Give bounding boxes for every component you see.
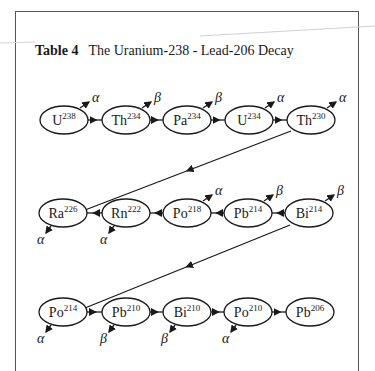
nuclide-node-Th234: Th234β [102, 90, 161, 134]
emission-arrow-icon [325, 195, 334, 201]
emission-arrow-icon [46, 325, 51, 332]
nuclide-node-Bi214: Bi214β [285, 183, 344, 227]
emission-arrow-icon [203, 195, 212, 201]
emission-arrow-icon [46, 226, 51, 233]
nuclide-node-U234: U234α [225, 90, 285, 134]
emission-label: β [275, 183, 283, 198]
emission-label: α [215, 183, 223, 198]
emission-label: β [336, 183, 344, 198]
emission-arrow-icon [109, 325, 114, 332]
emission-label: α [37, 331, 45, 346]
emission-arrow-icon [80, 102, 89, 108]
nuclide-node-Po210: Po210α [222, 298, 272, 346]
emission-label: α [100, 232, 108, 247]
nuclide-node-Bi210: Bi210β [160, 298, 211, 346]
emission-label: α [339, 90, 347, 105]
arrowhead-icon [187, 169, 192, 171]
nuclide-node-Pb206: Pb206 [286, 298, 334, 326]
emission-label: β [99, 331, 107, 346]
emission-arrow-icon [264, 195, 273, 201]
emission-arrow-icon [203, 102, 212, 108]
nuclide-node-Ra226: Ra226α [37, 199, 87, 247]
nuclide-node-Th230: Th230α [287, 90, 347, 134]
emission-arrow-icon [109, 226, 114, 233]
arrowhead-icon [187, 265, 192, 267]
nuclide-node-Pb214: Pb214β [224, 183, 283, 227]
emission-label: α [37, 232, 45, 247]
row-link-Th230-to-Ra226 [85, 131, 291, 210]
emission-arrow-icon [265, 102, 274, 108]
emission-arrow-icon [170, 325, 175, 332]
emission-label: α [277, 90, 285, 105]
emission-arrow-icon [231, 325, 236, 332]
row-link-Bi214-to-Po214 [85, 225, 290, 308]
nuclide-node-Pa234: Pa234β [163, 90, 222, 134]
nuclide-node-Po218: Po218α [163, 183, 223, 227]
nuclide-node-U238: U238α [40, 90, 100, 134]
nuclide-node-Rn222: Rn222α [100, 199, 150, 247]
emission-label: β [214, 90, 222, 105]
emission-label: α [222, 331, 230, 346]
emission-arrow-icon [142, 102, 151, 108]
emission-label: β [160, 331, 168, 346]
nuclide-node-Po214: Po214α [37, 298, 87, 346]
emission-label: α [92, 90, 100, 105]
emission-arrow-icon [327, 102, 336, 108]
emission-label: β [153, 90, 161, 105]
nuclide-node-Pb210: Pb210β [99, 298, 150, 346]
